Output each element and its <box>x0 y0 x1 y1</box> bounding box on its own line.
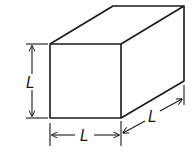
height-label: L <box>26 74 34 92</box>
cube <box>50 6 184 118</box>
cube-front-face <box>50 44 121 118</box>
depth-label: L <box>148 108 156 126</box>
width-label: L <box>80 127 88 145</box>
cube-right-face <box>121 6 184 118</box>
cube-diagram: L L L <box>0 0 194 156</box>
cube-top-face <box>50 6 184 44</box>
